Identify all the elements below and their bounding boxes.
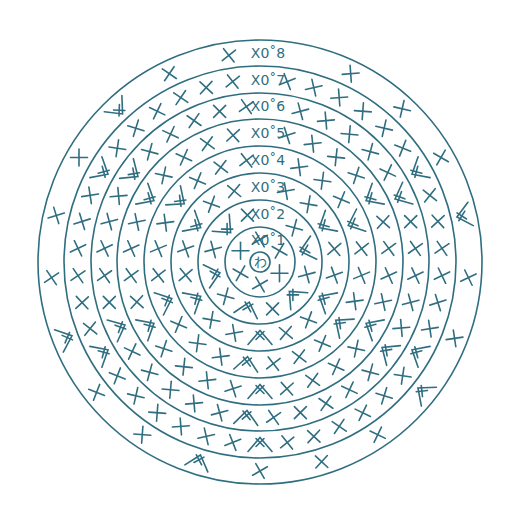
crochet-chart: X0˚1X0˚2X0˚3X0˚4X0˚5X0˚6X0˚7X0˚8 わ — [0, 0, 514, 522]
increase-symbol — [203, 261, 223, 288]
single-crochet-symbol — [226, 325, 243, 342]
single-crochet-symbol — [203, 196, 219, 212]
round-label-7: X0˚7 — [251, 72, 285, 88]
single-crochet-symbol — [328, 242, 341, 255]
single-crochet-symbol — [97, 241, 112, 256]
single-crochet-symbol — [267, 410, 281, 424]
single-crochet-symbol — [376, 120, 393, 137]
single-crochet-symbol — [76, 296, 88, 308]
single-crochet-symbol — [446, 330, 463, 347]
increase-symbol — [248, 385, 272, 399]
increase-symbol — [406, 157, 430, 185]
increase-symbol — [248, 438, 272, 452]
single-crochet-symbol — [319, 396, 333, 410]
single-crochet-symbol — [286, 220, 302, 236]
increase-symbol — [313, 286, 337, 314]
single-crochet-symbol — [375, 294, 392, 311]
single-crochet-symbol — [83, 322, 96, 335]
single-crochet-symbol — [292, 103, 308, 119]
single-crochet-symbol — [331, 89, 348, 106]
single-crochet-symbol — [408, 241, 422, 255]
increase-symbol — [234, 299, 261, 319]
single-crochet-symbol — [281, 436, 294, 449]
single-crochet-symbol — [149, 404, 166, 421]
single-crochet-symbol — [227, 129, 240, 142]
single-crochet-symbol — [162, 381, 179, 398]
single-crochet-symbol — [71, 149, 88, 166]
single-crochet-symbol — [228, 185, 241, 198]
single-crochet-symbol — [294, 407, 306, 419]
single-crochet-symbol — [233, 266, 248, 281]
single-crochet-symbol — [82, 187, 99, 204]
single-crochet-symbol — [405, 216, 417, 228]
round-label-4: X0˚4 — [251, 152, 285, 168]
single-crochet-symbol — [315, 455, 327, 467]
single-crochet-symbol — [394, 101, 411, 118]
single-crochet-symbol — [304, 135, 321, 152]
single-crochet-symbol — [434, 268, 449, 283]
single-crochet-symbol — [187, 114, 201, 128]
single-crochet-symbol — [124, 269, 138, 283]
single-crochet-symbol — [131, 296, 144, 309]
single-crochet-symbol — [301, 312, 317, 328]
single-crochet-symbol — [317, 112, 334, 129]
increase-symbol — [454, 202, 473, 229]
round-label-1: X0˚1 — [251, 232, 285, 248]
increase-symbol — [55, 325, 77, 352]
single-crochet-symbol — [198, 428, 215, 445]
increase-symbol — [90, 157, 114, 185]
single-crochet-symbol — [141, 364, 157, 380]
single-crochet-symbol — [141, 143, 157, 159]
single-crochet-symbol — [348, 340, 365, 357]
single-crochet-symbol — [394, 367, 411, 384]
single-crochet-symbol — [225, 381, 241, 397]
single-crochet-symbol — [179, 269, 192, 282]
single-crochet-symbol — [103, 296, 115, 308]
single-crochet-symbol — [157, 214, 174, 231]
single-crochet-symbol — [354, 103, 371, 120]
single-crochet-symbol — [267, 357, 280, 370]
single-crochet-symbol — [315, 335, 331, 351]
single-crochet-symbol — [291, 159, 308, 176]
single-crochet-symbol — [128, 388, 145, 405]
increase-symbol — [360, 313, 384, 341]
single-crochet-symbol — [393, 319, 410, 336]
single-crochet-symbol — [172, 418, 189, 435]
single-crochet-symbol — [253, 277, 268, 292]
single-crochet-symbol — [74, 213, 90, 229]
single-crochet-symbol — [45, 271, 59, 285]
single-crochet-symbol — [214, 161, 227, 174]
single-crochet-symbol — [156, 341, 172, 357]
single-crochet-symbol — [176, 149, 192, 165]
magic-ring-label: わ — [254, 255, 267, 270]
round-label-3: X0˚3 — [251, 179, 285, 195]
single-crochet-symbol — [267, 303, 279, 315]
single-crochet-symbol — [214, 105, 226, 117]
single-crochet-symbol — [435, 241, 449, 255]
increase-symbol — [390, 182, 413, 210]
round-label-5: X0˚5 — [251, 125, 285, 141]
increase-symbol — [360, 183, 384, 211]
increase-symbol — [185, 451, 212, 471]
increase-symbol — [406, 339, 430, 367]
single-crochet-symbol — [423, 189, 436, 202]
single-crochet-symbol — [174, 91, 188, 105]
increase-symbol — [344, 209, 366, 237]
single-crochet-symbol — [382, 242, 396, 256]
single-crochet-symbol — [380, 165, 395, 180]
single-crochet-symbol — [328, 359, 344, 375]
single-crochet-symbol — [190, 173, 206, 189]
single-crochet-symbol — [199, 372, 216, 389]
single-crochet-symbol — [421, 320, 438, 337]
single-crochet-symbol — [328, 149, 345, 166]
single-crochet-symbol — [346, 293, 363, 310]
single-crochet-symbol — [162, 67, 176, 81]
round-label-2: X0˚2 — [251, 206, 285, 222]
single-crochet-symbol — [109, 368, 125, 384]
single-crochet-symbol — [205, 241, 221, 257]
single-crochet-symbol — [253, 464, 268, 479]
single-crochet-symbol — [163, 127, 178, 142]
single-crochet-symbol — [222, 49, 235, 62]
increase-symbol — [313, 210, 337, 238]
single-crochet-symbol — [300, 196, 317, 213]
